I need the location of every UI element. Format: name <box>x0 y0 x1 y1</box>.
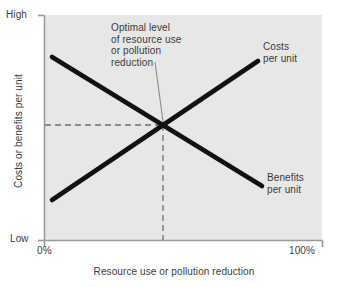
y-axis-label-high: High <box>6 9 27 21</box>
chart-figure: Costs or benefits per unit High Low 0% 1… <box>0 0 348 287</box>
optimal-level-annotation: Optimal level of resource use or polluti… <box>111 22 207 68</box>
benefits-per-unit-label: Benefits per unit <box>267 172 304 195</box>
x-axis-label-max: 100% <box>289 245 315 257</box>
y-axis-label-low: Low <box>10 233 29 245</box>
y-axis-title: Costs or benefits per unit <box>13 74 25 188</box>
y-axis-title-wrapper: Costs or benefits per unit <box>8 51 26 211</box>
costs-per-unit-label: Costs per unit <box>263 41 297 64</box>
x-axis-title: Resource use or pollution reduction <box>0 266 348 278</box>
x-axis-label-min: 0% <box>37 245 52 257</box>
